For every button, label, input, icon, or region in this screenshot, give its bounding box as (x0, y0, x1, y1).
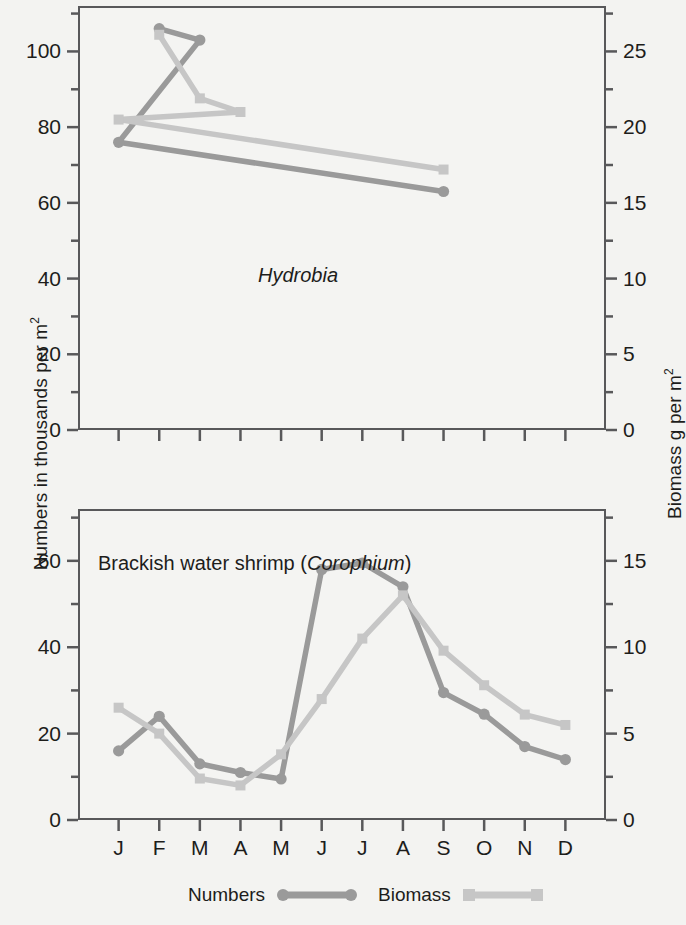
x-axis-tick-label: M (272, 836, 290, 860)
caption-suffix: ) (405, 552, 412, 574)
chart-legend: Numbers Biomass (0, 884, 672, 918)
y-axis-tick-label: 40 (38, 635, 61, 659)
legend-item-numbers: Numbers (188, 884, 359, 906)
panel-caption-corophium: Brackish water shrimp (Corophium) (98, 552, 411, 575)
legend-label-biomass: Biomass (378, 884, 451, 906)
caption-species-name: Corophium (307, 552, 405, 574)
x-axis-tick-label: A (233, 836, 247, 860)
legend-label-numbers: Numbers (188, 884, 265, 906)
x-axis-tick-label: O (476, 836, 492, 860)
y-axis-tick-label: 60 (38, 549, 61, 573)
legend-item-biomass: Biomass (378, 884, 545, 906)
legend-swatch-numbers-icon (275, 886, 359, 904)
x-axis-tick-label: M (191, 836, 209, 860)
x-axis-tick-label: N (517, 836, 532, 860)
x-axis-tick-label: J (357, 836, 368, 860)
y-axis-tick-label: 0 (49, 808, 61, 832)
legend-swatch-biomass-icon (461, 886, 545, 904)
x-axis-tick-label: J (113, 836, 124, 860)
y2-axis-tick-label: 0 (623, 808, 635, 832)
y2-axis-tick-label: 10 (623, 635, 646, 659)
y-axis-tick-label: 20 (38, 722, 61, 746)
x-axis-tick-label: F (153, 836, 166, 860)
series-biomass (114, 590, 571, 790)
x-axis-tick-label: S (437, 836, 451, 860)
x-axis-tick-label: J (316, 836, 327, 860)
y2-axis-tick-label: 5 (623, 722, 635, 746)
x-axis-tick-label: A (396, 836, 410, 860)
caption-prefix: Brackish water shrimp ( (98, 552, 307, 574)
y2-axis-tick-label: 15 (623, 549, 646, 573)
x-axis-tick-label: D (558, 836, 573, 860)
